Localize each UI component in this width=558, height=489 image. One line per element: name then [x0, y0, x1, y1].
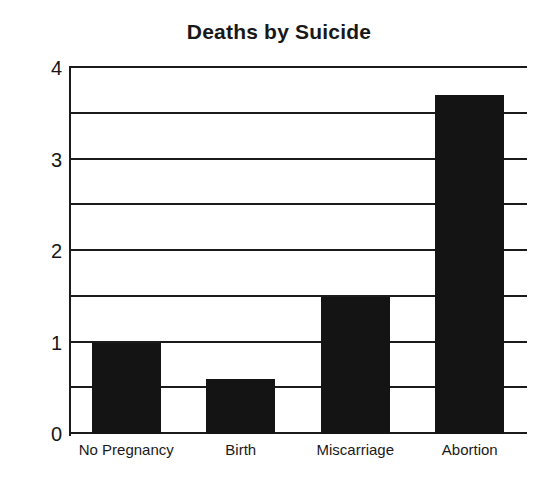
x-tick-label: No Pregnancy	[79, 441, 174, 458]
y-tick-label: 1	[28, 331, 62, 354]
y-tick-label: 2	[28, 240, 62, 263]
bar-miscarriage	[321, 297, 390, 434]
x-tick-label: Birth	[225, 441, 256, 458]
y-tick-label: 4	[28, 57, 62, 80]
y-axis-tick-labels: 01234	[20, 0, 62, 489]
bar-chart: Deaths by Suicide 01234 No PregnancyBirt…	[0, 0, 558, 489]
y-tick-label: 3	[28, 148, 62, 171]
gridline	[69, 66, 527, 68]
x-tick-label: Miscarriage	[316, 441, 394, 458]
bar-no-pregnancy	[92, 343, 161, 435]
x-tick-label: Abortion	[442, 441, 498, 458]
bar-abortion	[435, 95, 504, 434]
x-axis-tick-labels: No PregnancyBirthMiscarriageAbortion	[69, 441, 527, 469]
y-tick-label: 0	[28, 423, 62, 446]
bar-birth	[206, 379, 275, 434]
plot-area	[69, 68, 527, 434]
chart-title: Deaths by Suicide	[0, 20, 558, 44]
